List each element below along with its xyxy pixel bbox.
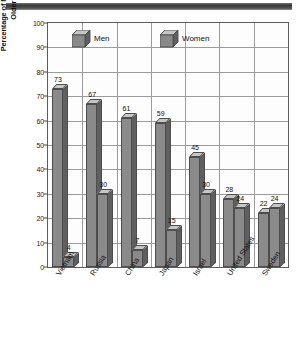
bar-israel-men [189,157,200,267]
smoking-percentage-bar-chart: Percentage of Men and Women Age Fifteen … [0,0,298,347]
bar-front-face [200,194,211,267]
plot-area: 0102030405060708090100MenWomen7346730617… [47,22,289,268]
gridline-vertical [219,23,220,267]
bar-side-face [177,226,182,267]
y-axis-tick-mark [44,242,48,243]
y-axis-tick-mark [44,96,48,97]
legend-label: Men [94,35,110,43]
y-axis-tick-mark [44,23,48,24]
bar-front-face [189,157,200,267]
bar-value-label: 22 [260,200,268,207]
y-axis-tick-mark [44,169,48,170]
y-axis-tick-label: 80 [37,68,44,75]
y-axis-tick-mark [44,267,48,268]
y-axis-tick-label: 100 [33,20,44,27]
bar-vietnam-men [52,89,63,267]
bar-value-label: 30 [99,181,107,188]
bar-value-label: 59 [157,110,165,117]
gridline-horizontal [48,72,288,73]
y-axis-tick-label: 70 [37,93,44,100]
bar-side-face [280,204,285,267]
bar-side-face [143,245,148,267]
gridline-vertical [151,23,152,267]
gridline-vertical [185,23,186,267]
legend-label: Women [182,35,209,43]
y-axis-tick-mark [44,47,48,48]
bar-value-label: 73 [54,76,62,83]
bar-value-label: 28 [225,186,233,193]
bar-front-face [86,104,97,267]
bar-japan-men [155,123,166,267]
cube-3d-icon [72,30,91,49]
y-axis-tick-label: 40 [37,166,44,173]
y-axis-tick-label: 30 [37,190,44,197]
bar-front-face [223,199,234,267]
y-axis-tick-mark [44,193,48,194]
y-axis-tick-mark [44,71,48,72]
y-axis-tick-label: 10 [37,239,44,246]
y-axis-title-line-2: Older Who Smoke Cigarettes [9,0,19,60]
gridline-vertical [82,23,83,267]
y-axis-tick-mark [44,145,48,146]
bar-russia-men [86,104,97,267]
y-axis-tick-mark [44,218,48,219]
bar-value-label: 45 [191,144,199,151]
bar-united-states-men [223,199,234,267]
y-axis-title-line-1: Percentage of Men and Women Age Fifteen … [0,0,9,60]
y-axis-tick-label: 90 [37,44,44,51]
bar-value-label: 15 [168,217,176,224]
bar-value-label: 7 [135,237,139,244]
bar-front-face [121,118,132,267]
bar-china-men [121,118,132,267]
bar-value-label: 30 [202,181,210,188]
bar-side-face [108,189,113,267]
cube-3d-icon [160,30,179,49]
bar-side-face [211,189,216,267]
bar-side-face [132,114,137,267]
bar-value-label: 24 [236,195,244,202]
bar-value-label: 61 [123,105,131,112]
y-axis-tick-label: 20 [37,215,44,222]
bar-front-face [52,89,63,267]
bar-front-face [155,123,166,267]
y-axis-title: Percentage of Men and Women Age Fifteen … [0,0,18,60]
y-axis-tick-label: 0 [40,264,44,271]
gridline-vertical [254,23,255,267]
bar-israel-women [200,194,211,267]
gridline-horizontal [48,96,288,97]
gridline-vertical [117,23,118,267]
y-axis-tick-label: 60 [37,117,44,124]
bar-value-label: 24 [271,195,279,202]
y-axis-tick-mark [44,120,48,121]
y-axis-tick-label: 50 [37,142,44,149]
bar-value-label: 67 [88,91,96,98]
bar-side-face [63,84,68,267]
